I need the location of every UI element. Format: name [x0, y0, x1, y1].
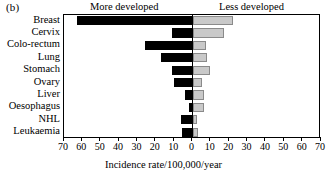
bar-less-developed: [193, 53, 208, 62]
plot-area: [63, 14, 320, 138]
bar-less-developed: [193, 128, 198, 137]
bar-more-developed: [172, 66, 192, 75]
bar-less-developed: [193, 41, 207, 50]
heading-more-developed: More developed: [90, 0, 159, 13]
x-axis-tick-label: 20: [223, 141, 233, 153]
category-label: Colo-rectum: [0, 38, 60, 50]
x-axis-tick-label: 60: [297, 141, 307, 153]
bar-less-developed: [193, 90, 205, 99]
category-label: Lung: [0, 51, 60, 63]
x-axis-tick-label: 70: [58, 141, 68, 153]
bar-more-developed: [181, 115, 192, 124]
category-label: Liver: [0, 88, 60, 100]
zero-axis-line: [192, 15, 193, 137]
x-axis-tick-label: 10: [205, 141, 215, 153]
x-axis-tick-label: 60: [76, 141, 86, 153]
heading-less-developed: Less developed: [219, 0, 284, 13]
figure-panel-b: (b) More developed Less developed Breast…: [0, 0, 327, 174]
x-axis-tick-label: 40: [113, 141, 123, 153]
bar-less-developed: [193, 16, 233, 25]
category-label: Ovary: [0, 76, 60, 88]
x-axis-tick-label: 30: [242, 141, 252, 153]
bar-less-developed: [193, 115, 198, 124]
bar-more-developed: [145, 41, 193, 50]
bar-less-developed: [193, 78, 202, 87]
category-label: Cervix: [0, 26, 60, 38]
bar-more-developed: [174, 78, 192, 87]
category-label: Breast: [0, 14, 60, 26]
bar-more-developed: [161, 53, 192, 62]
category-label: NHL: [0, 113, 60, 125]
category-label: Leukaemia: [0, 125, 60, 137]
bar-less-developed: [193, 103, 204, 112]
panel-label: (b): [6, 1, 19, 13]
x-axis-title: Incidence rate/100,000/year: [0, 158, 327, 172]
x-axis-tick-label: 40: [260, 141, 270, 153]
x-axis-tick-label: 70: [315, 141, 325, 153]
category-label: Stomach: [0, 63, 60, 75]
bar-more-developed: [77, 16, 193, 25]
x-axis-tick-label: 10: [168, 141, 178, 153]
category-label: Oesophagus: [0, 100, 60, 112]
bar-more-developed: [172, 28, 192, 37]
x-axis-tick-label: 20: [150, 141, 160, 153]
x-axis-tick-label: 50: [278, 141, 288, 153]
x-axis-tick-label: 50: [95, 141, 105, 153]
x-axis-tick-label: 0: [189, 141, 194, 153]
category-axis-labels: BreastCervixColo-rectumLungStomachOvaryL…: [0, 14, 60, 138]
x-axis-tick-label: 30: [131, 141, 141, 153]
bar-less-developed: [193, 28, 224, 37]
bar-less-developed: [193, 66, 210, 75]
bar-more-developed: [182, 128, 192, 137]
